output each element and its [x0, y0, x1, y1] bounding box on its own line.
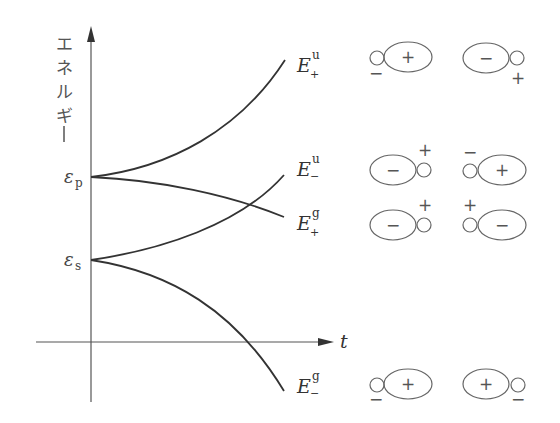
- svg-text:g: g: [312, 206, 320, 220]
- orbital-sign: +: [479, 374, 493, 394]
- orbital-sign: −: [495, 215, 509, 235]
- svg-text:−: −: [310, 387, 319, 400]
- y-axis-arrow-icon: [87, 26, 95, 42]
- orbital-sign: −: [479, 48, 493, 68]
- y-axis-label-char: エ: [56, 34, 73, 54]
- svg-text:g: g: [312, 369, 320, 383]
- eps-s-subscript: s: [75, 259, 81, 273]
- label-e-minus-g: E g −: [296, 369, 320, 400]
- orbital-sign: +: [495, 160, 509, 180]
- curve-e-plus-u: [91, 60, 285, 177]
- orbital-sign: +: [463, 195, 477, 215]
- curve-e-minus-g: [91, 260, 284, 391]
- svg-text:+: +: [310, 68, 319, 81]
- orbital-sign: +: [401, 374, 415, 394]
- orbital-sign: −: [369, 63, 383, 83]
- y-axis-label-char: ル: [56, 82, 73, 102]
- orbital-sign: +: [511, 68, 525, 88]
- svg-text:−: −: [310, 170, 319, 183]
- orbital-sign: −: [463, 142, 477, 162]
- svg-text:+: +: [310, 226, 319, 239]
- svg-text:E: E: [296, 158, 311, 180]
- orbital-sign: −: [386, 160, 400, 180]
- eps-p-symbol: ε: [64, 166, 74, 187]
- label-e-plus-u: E u +: [296, 48, 320, 81]
- label-e-plus-g: E g +: [296, 206, 320, 239]
- orbital-sign: +: [418, 195, 432, 215]
- x-axis-label: t: [340, 330, 348, 352]
- eps-p-subscript: p: [75, 176, 83, 190]
- svg-text:u: u: [312, 152, 320, 166]
- orbital-sign: +: [401, 47, 415, 67]
- label-e-minus-u: E u −: [296, 152, 320, 183]
- curve-e-plus-g: [91, 177, 284, 217]
- y-axis-label-char: ネ: [56, 58, 73, 78]
- orbital-sign: −: [369, 389, 383, 409]
- energy-level-diagram: エ ネ ル ギ t ε p ε s E u + E u − E g + E g …: [0, 0, 560, 423]
- y-axis-label-char: ギ: [56, 106, 73, 126]
- orbital-sign: +: [418, 140, 432, 160]
- eps-s-symbol: ε: [64, 249, 74, 270]
- orbital-sign: −: [386, 215, 400, 235]
- svg-text:E: E: [296, 212, 311, 234]
- svg-text:E: E: [296, 54, 311, 76]
- x-axis-arrow-icon: [318, 338, 334, 346]
- svg-text:u: u: [312, 48, 320, 62]
- curve-e-minus-u: [91, 175, 284, 260]
- orbital-sign: −: [511, 389, 525, 409]
- svg-text:E: E: [296, 375, 311, 397]
